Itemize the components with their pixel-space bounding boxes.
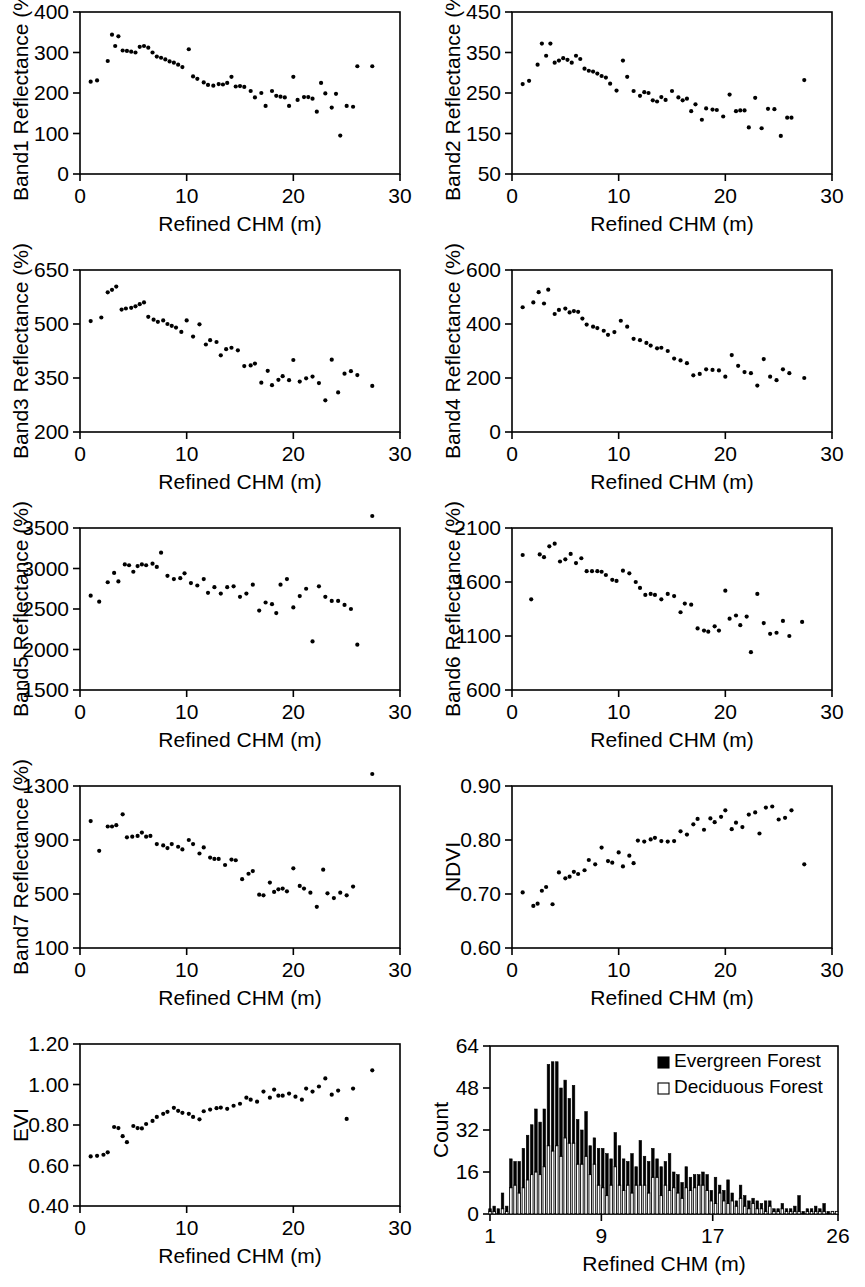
x-axis-label: Refined CHM (m) <box>590 470 753 493</box>
svg-text:30: 30 <box>388 1216 411 1239</box>
svg-text:200: 200 <box>34 81 69 104</box>
x-axis-label: Refined CHM (m) <box>590 728 753 751</box>
panel-band4: 02004006000102030Refined CHM (m)Band4 Re… <box>432 258 865 516</box>
y-axis-label: Band4 Reflectance (%) <box>441 243 464 459</box>
svg-text:650: 650 <box>34 258 69 281</box>
svg-text:Evergreen Forest: Evergreen Forest <box>674 1050 822 1071</box>
svg-text:1: 1 <box>484 1224 496 1247</box>
svg-text:30: 30 <box>388 958 411 981</box>
y-axis-label: Band2 Reflectance (%) <box>441 0 464 201</box>
svg-text:0.90: 0.90 <box>460 774 501 797</box>
panel-ndvi: 0.600.700.800.900102030Refined CHM (m)ND… <box>432 774 865 1032</box>
svg-text:30: 30 <box>820 700 843 723</box>
svg-text:20: 20 <box>714 700 737 723</box>
svg-text:200: 200 <box>34 420 69 443</box>
svg-text:17: 17 <box>701 1224 724 1247</box>
y-axis-label: Band7 Reflectance (%) <box>9 759 32 975</box>
svg-text:10: 10 <box>175 442 198 465</box>
y-axis-label: Count <box>429 1102 452 1158</box>
svg-text:500: 500 <box>34 882 69 905</box>
svg-text:0: 0 <box>74 184 86 207</box>
svg-text:20: 20 <box>282 184 305 207</box>
svg-text:0: 0 <box>506 700 518 723</box>
svg-text:64: 64 <box>456 1034 480 1057</box>
svg-text:200: 200 <box>466 366 501 389</box>
x-axis-label: Refined CHM (m) <box>158 212 321 235</box>
x-axis-label: Refined CHM (m) <box>158 1244 321 1267</box>
svg-text:20: 20 <box>282 1216 305 1239</box>
svg-text:0: 0 <box>506 442 518 465</box>
svg-text:300: 300 <box>34 41 69 64</box>
svg-text:0: 0 <box>506 958 518 981</box>
svg-text:0.40: 0.40 <box>28 1194 69 1217</box>
svg-text:30: 30 <box>388 442 411 465</box>
svg-text:20: 20 <box>714 442 737 465</box>
x-axis-label: Refined CHM (m) <box>582 1252 745 1275</box>
panel-chm-histogram: 016324864191726Refined CHM (m)CountEverg… <box>432 1032 865 1287</box>
svg-text:450: 450 <box>466 0 501 23</box>
svg-text:32: 32 <box>456 1118 479 1141</box>
panel-band7: 10050090013000102030Refined CHM (m)Band7… <box>0 774 433 1032</box>
y-axis-label: Band3 Reflectance (%) <box>9 243 32 459</box>
svg-text:10: 10 <box>607 442 630 465</box>
svg-text:500: 500 <box>34 312 69 335</box>
svg-text:0: 0 <box>467 1202 479 1225</box>
svg-text:350: 350 <box>466 41 501 64</box>
svg-text:10: 10 <box>175 1216 198 1239</box>
y-axis-label: NDVI <box>441 842 464 892</box>
svg-text:30: 30 <box>820 184 843 207</box>
x-axis-label: Refined CHM (m) <box>158 470 321 493</box>
svg-text:10: 10 <box>175 700 198 723</box>
panel-band6: 6001100160021000102030Refined CHM (m)Ban… <box>432 516 865 774</box>
y-axis-label: Band1 Reflectance (%) <box>9 0 32 201</box>
svg-text:0: 0 <box>506 184 518 207</box>
svg-text:10: 10 <box>175 184 198 207</box>
y-axis-label: EVI <box>9 1108 32 1142</box>
svg-text:0: 0 <box>74 958 86 981</box>
x-axis-label: Refined CHM (m) <box>590 986 753 1009</box>
panel-band5: 150020002500300035000102030Refined CHM (… <box>0 516 433 774</box>
svg-text:48: 48 <box>456 1076 479 1099</box>
x-axis-label: Refined CHM (m) <box>158 986 321 1009</box>
x-axis-label: Refined CHM (m) <box>590 212 753 235</box>
svg-text:600: 600 <box>466 678 501 701</box>
svg-text:0: 0 <box>74 700 86 723</box>
svg-text:100: 100 <box>34 936 69 959</box>
svg-text:20: 20 <box>714 958 737 981</box>
svg-text:0.80: 0.80 <box>460 828 501 851</box>
svg-text:10: 10 <box>175 958 198 981</box>
svg-text:30: 30 <box>388 184 411 207</box>
x-axis-label: Refined CHM (m) <box>158 728 321 751</box>
svg-text:400: 400 <box>466 312 501 335</box>
svg-text:1.00: 1.00 <box>28 1073 69 1096</box>
svg-text:1.20: 1.20 <box>28 1032 69 1055</box>
svg-text:50: 50 <box>478 162 501 185</box>
svg-text:0.70: 0.70 <box>460 882 501 905</box>
panel-band3: 2003505006500102030Refined CHM (m)Band3 … <box>0 258 433 516</box>
figure-panel-grid: 01002003004000102030Refined CHM (m)Band1… <box>0 0 865 1287</box>
svg-text:0.60: 0.60 <box>460 936 501 959</box>
svg-text:Deciduous Forest: Deciduous Forest <box>674 1076 824 1097</box>
svg-text:10: 10 <box>607 184 630 207</box>
svg-text:0.80: 0.80 <box>28 1113 69 1136</box>
svg-text:30: 30 <box>820 958 843 981</box>
y-axis-label: Band6 Reflectance (%) <box>441 501 464 717</box>
panel-evi: 0.400.600.801.001.200102030Refined CHM (… <box>0 1032 433 1287</box>
y-axis-label: Band5 Reflectance (%) <box>9 501 32 717</box>
svg-text:26: 26 <box>826 1224 849 1247</box>
svg-text:350: 350 <box>34 366 69 389</box>
svg-text:0.60: 0.60 <box>28 1154 69 1177</box>
svg-text:900: 900 <box>34 828 69 851</box>
svg-text:20: 20 <box>282 700 305 723</box>
svg-text:100: 100 <box>34 122 69 145</box>
svg-text:400: 400 <box>34 0 69 23</box>
svg-text:0: 0 <box>489 420 501 443</box>
svg-text:10: 10 <box>607 958 630 981</box>
svg-text:0: 0 <box>57 162 69 185</box>
svg-text:0: 0 <box>74 1216 86 1239</box>
svg-text:20: 20 <box>282 958 305 981</box>
panel-band2: 501502503504500102030Refined CHM (m)Band… <box>432 0 865 258</box>
svg-text:20: 20 <box>282 442 305 465</box>
svg-text:600: 600 <box>466 258 501 281</box>
svg-text:250: 250 <box>466 81 501 104</box>
